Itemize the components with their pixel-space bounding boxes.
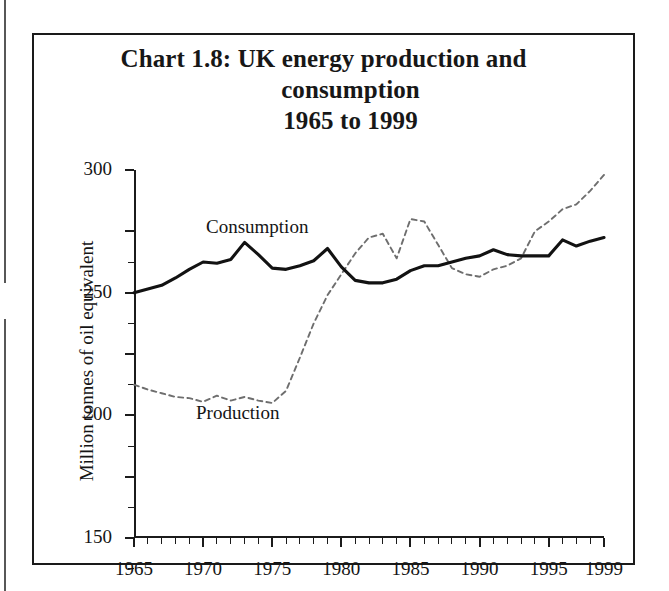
x-tick-1980: 1980 — [340, 538, 342, 547]
x-tick-label-1995: 1995 — [530, 558, 568, 580]
x-minor-tick-1996 — [562, 538, 563, 544]
x-minor-tick-1976 — [286, 538, 287, 544]
y-tick-150: 150 — [125, 353, 134, 355]
plot-area: 050100150200250300 196519701975198019851… — [134, 170, 604, 538]
production-line — [134, 175, 604, 403]
x-minor-tick-1983 — [382, 538, 383, 544]
chart-title-line-1: Chart 1.8: UK energy production and — [34, 43, 633, 74]
x-minor-tick-1994 — [534, 538, 535, 544]
x-minor-tick-1981 — [355, 538, 356, 544]
y-tick-label-150: 150 — [84, 526, 113, 548]
x-tick-label-1980: 1980 — [322, 558, 360, 580]
x-minor-tick-1989 — [465, 538, 466, 544]
x-minor-tick-1988 — [451, 538, 452, 544]
x-minor-tick-1984 — [396, 538, 397, 544]
x-minor-tick-1969 — [189, 538, 190, 544]
x-minor-tick-1967 — [161, 538, 162, 544]
x-minor-tick-1974 — [258, 538, 259, 544]
series-label-production: Production — [196, 402, 279, 424]
x-minor-tick-1987 — [438, 538, 439, 544]
y-tick-300: 300 — [125, 169, 134, 171]
chart-title: Chart 1.8: UK energy production and cons… — [34, 43, 633, 136]
x-minor-tick-1991 — [493, 538, 494, 544]
x-tick-label-1985: 1985 — [391, 558, 429, 580]
x-tick-label-1999: 1999 — [585, 558, 623, 580]
x-minor-tick-1998 — [590, 538, 591, 544]
x-tick-label-1990: 1990 — [461, 558, 499, 580]
chart-title-line-3: 1965 to 1999 — [34, 105, 633, 136]
x-tick-1970: 1970 — [202, 538, 204, 547]
y-tick-100: 100 — [125, 414, 134, 416]
series-label-consumption: Consumption — [206, 216, 308, 238]
x-minor-tick-1982 — [369, 538, 370, 544]
y-tick-label-250: 250 — [84, 280, 113, 302]
x-tick-1965: 1965 — [133, 538, 135, 547]
chart-title-line-2: consumption — [34, 74, 633, 105]
x-tick-1975: 1975 — [271, 538, 273, 547]
x-minor-tick-1973 — [244, 538, 245, 544]
y-tick-250: 250 — [125, 230, 134, 232]
x-minor-tick-1971 — [216, 538, 217, 544]
x-minor-tick-1979 — [327, 538, 328, 544]
x-minor-tick-1992 — [507, 538, 508, 544]
x-tick-label-1965: 1965 — [115, 558, 153, 580]
x-minor-tick-1968 — [175, 538, 176, 544]
y-tick-50: 50 — [125, 476, 134, 478]
x-tick-1990: 1990 — [479, 538, 481, 547]
x-tick-label-1975: 1975 — [253, 558, 291, 580]
scan-artifact-gap — [0, 283, 10, 319]
x-minor-tick-1997 — [576, 538, 577, 544]
x-tick-1999: 1999 — [603, 538, 605, 547]
series-plot — [134, 170, 604, 538]
consumption-line — [134, 237, 604, 292]
y-tick-label-300: 300 — [84, 158, 113, 180]
chart-frame: Chart 1.8: UK energy production and cons… — [32, 33, 635, 565]
x-tick-1985: 1985 — [409, 538, 411, 547]
y-axis-title: Million tonnes of oil equivalent — [76, 196, 98, 526]
x-minor-tick-1978 — [313, 538, 314, 544]
x-minor-tick-1972 — [230, 538, 231, 544]
x-tick-1995: 1995 — [548, 538, 550, 547]
x-minor-tick-1993 — [521, 538, 522, 544]
x-tick-label-1970: 1970 — [184, 558, 222, 580]
x-minor-tick-1986 — [424, 538, 425, 544]
y-tick-label-200: 200 — [84, 403, 113, 425]
x-minor-tick-1977 — [299, 538, 300, 544]
x-minor-tick-1966 — [147, 538, 148, 544]
